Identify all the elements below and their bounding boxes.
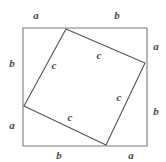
length-label-bottom-right-a: a [128,150,134,161]
pythagorean-square-diagram: ababbabacccc [0,0,166,162]
length-label-hyp-lower-right: c [117,92,122,103]
length-label-hyp-lower-left: c [68,112,73,123]
outer-square [23,28,147,146]
length-label-hyp-upper-left: c [52,60,57,71]
length-label-bottom-left-b: b [56,150,62,161]
length-label-right-top-a: a [153,41,159,52]
length-label-left-top-b: b [9,58,15,69]
length-label-top-left-a: a [33,10,39,21]
length-label-hyp-upper-right: c [97,50,102,61]
length-label-left-bottom-a: a [9,120,15,131]
length-label-top-right-b: b [114,10,120,21]
geometry-figure [0,0,166,162]
inner-square [24,29,145,145]
length-label-right-bottom-b: b [153,106,159,117]
